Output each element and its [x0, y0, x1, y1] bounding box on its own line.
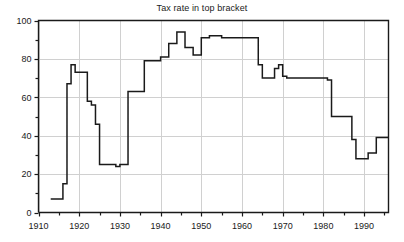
x-axis-labels: 191019201930194019501960197019801990	[28, 221, 374, 231]
axis-ticks	[35, 22, 385, 217]
y-axis-tick-label: 0	[26, 208, 31, 218]
y-axis-tick-label: 20	[21, 169, 31, 179]
x-axis-tick-label: 1970	[273, 221, 293, 231]
x-axis-tick-label: 1980	[313, 221, 333, 231]
y-axis-tick-label: 60	[21, 93, 31, 103]
y-axis-tick-label: 100	[16, 16, 31, 26]
y-axis-labels: 020406080100	[16, 16, 31, 218]
y-axis-tick-label: 80	[21, 54, 31, 64]
x-axis-tick-label: 1960	[232, 221, 252, 231]
y-axis-tick-label: 40	[21, 131, 31, 141]
x-axis-tick-label: 1910	[28, 221, 48, 231]
chart-plot-area: 020406080100 191019201930194019501960197…	[0, 0, 404, 242]
chart-container: Tax rate in top bracket 020406080100 191…	[0, 0, 404, 242]
x-axis-tick-label: 1940	[151, 221, 171, 231]
x-axis-tick-label: 1930	[110, 221, 130, 231]
x-axis-tick-label: 1990	[354, 221, 374, 231]
x-axis-tick-label: 1950	[191, 221, 211, 231]
x-axis-tick-label: 1920	[69, 221, 89, 231]
